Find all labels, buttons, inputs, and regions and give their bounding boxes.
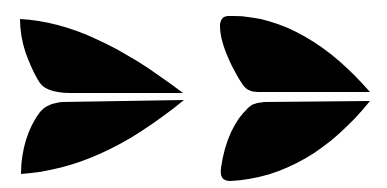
lower-wing-left-icon — [21, 100, 184, 174]
figure-canvas — [0, 0, 387, 188]
upper-wing-right-icon — [220, 16, 370, 92]
upper-wing-left-icon — [20, 19, 183, 93]
lower-wing-right-icon — [221, 101, 370, 181]
wing-pair-rounded-icon — [220, 16, 370, 181]
wing-glyphs — [0, 0, 387, 188]
wing-pair-pointed-icon — [20, 19, 184, 174]
